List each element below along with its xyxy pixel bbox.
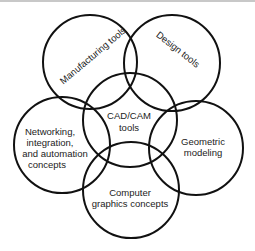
cad-cam-label-line2: tools bbox=[119, 122, 139, 133]
cad-cam-venn-diagram: Manufacturing tools Design tools CAD/CAM… bbox=[0, 0, 255, 251]
manufacturing-tools-label: Manufacturing tools bbox=[57, 24, 128, 86]
graphics-label-line1: Computer bbox=[109, 187, 151, 198]
networking-label-line3: and automation bbox=[22, 148, 88, 159]
geometric-label-line2: modeling bbox=[184, 147, 223, 158]
networking-label-line1: Networking, bbox=[25, 126, 75, 137]
design-tools-circle bbox=[124, 15, 220, 111]
cad-cam-label-line1: CAD/CAM bbox=[107, 110, 151, 121]
networking-label-line2: integration, bbox=[26, 137, 73, 148]
graphics-label-line2: graphics concepts bbox=[92, 198, 169, 209]
design-tools-label: Design tools bbox=[154, 29, 202, 70]
networking-label-line4: concepts bbox=[28, 159, 66, 170]
geometric-label-line1: Geometric bbox=[181, 136, 225, 147]
